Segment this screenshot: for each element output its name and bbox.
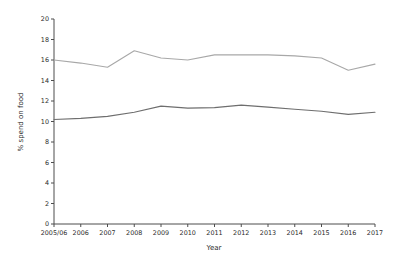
x-tick-label: 2011 (206, 229, 222, 237)
x-tick-label: 2015 (313, 229, 329, 237)
y-tick-label: 20 (41, 15, 49, 23)
y-tick-label: 10 (41, 118, 49, 126)
y-tick-label: 12 (41, 97, 49, 105)
x-axis-title: Year (206, 244, 222, 252)
y-tick-label: 18 (41, 36, 49, 44)
y-axis-title: % spend on food (17, 93, 25, 152)
x-tick-label: 2006 (73, 229, 89, 237)
x-tick-label: 2014 (287, 229, 303, 237)
y-tick-label: 2 (45, 200, 49, 208)
x-tick-label: 2017 (367, 229, 383, 237)
x-tick-label: 2016 (340, 229, 356, 237)
x-tick-label: 2010 (180, 229, 196, 237)
x-tick-label: 2009 (153, 229, 169, 237)
y-tick-label: 14 (41, 77, 49, 85)
x-tick-label: 2012 (233, 229, 249, 237)
x-tick-label: 2007 (99, 229, 115, 237)
x-tick-label: 2013 (260, 229, 276, 237)
y-tick-label: 4 (45, 179, 49, 187)
y-tick-label: 6 (45, 159, 49, 167)
y-tick-label: 8 (45, 138, 49, 146)
y-tick-label: 16 (41, 56, 49, 64)
chart-canvas: 02468101214161820 2005/06200620072008200… (0, 0, 396, 272)
y-tick-label: 0 (45, 220, 49, 228)
x-tick-label: 2008 (126, 229, 142, 237)
line-chart: 02468101214161820 2005/06200620072008200… (0, 0, 396, 272)
x-tick-label: 2005/06 (41, 229, 68, 237)
